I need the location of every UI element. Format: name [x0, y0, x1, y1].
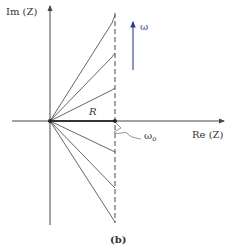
resonance-leader-squiggle: [114, 123, 141, 139]
resonance-frequency-label: ωo: [144, 130, 156, 143]
origin-dot: [48, 119, 52, 123]
y-axis-label: Im (Z): [6, 6, 37, 17]
omega-symbol: ω: [144, 130, 152, 141]
frequency-label: ω: [140, 21, 148, 32]
figure-caption: (b): [110, 234, 126, 245]
resonance-point-dot: [113, 119, 117, 123]
impedance-plane-diagram: Im (Z) Re (Z) R ωo ω (b): [0, 0, 238, 248]
impedance-rays: [50, 15, 115, 222]
x-axis-label: Re (Z): [192, 129, 223, 140]
omega-subscript: o: [152, 135, 156, 143]
resistance-label: R: [88, 106, 97, 117]
